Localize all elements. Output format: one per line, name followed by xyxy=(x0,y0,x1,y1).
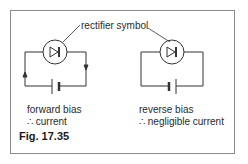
diode-triangle-icon xyxy=(50,47,58,57)
rectifier-symbol-label: rectifier symbol xyxy=(81,20,148,31)
figure-label: Fig. 17.35 xyxy=(19,130,69,142)
reverse-caption-line2: ∴ negligible current xyxy=(139,116,224,127)
arrow-down-icon xyxy=(84,65,88,70)
forward-caption-line2: ∴ current xyxy=(27,116,67,127)
rectifier-circle xyxy=(160,40,184,64)
reverse-bias-circuit xyxy=(141,40,203,94)
wire xyxy=(176,52,203,86)
rectifier-circle xyxy=(43,40,67,64)
wire xyxy=(59,52,86,86)
wire xyxy=(141,52,169,86)
forward-bias-circuit xyxy=(23,40,88,94)
diode-triangle-icon xyxy=(167,47,175,57)
leader-line-right xyxy=(148,28,170,42)
reverse-caption-line1: reverse bias xyxy=(139,104,193,115)
leader-line-left xyxy=(63,25,80,42)
wire xyxy=(25,52,52,86)
arrow-up-icon xyxy=(23,72,27,77)
forward-caption-line1: forward bias xyxy=(27,104,81,115)
